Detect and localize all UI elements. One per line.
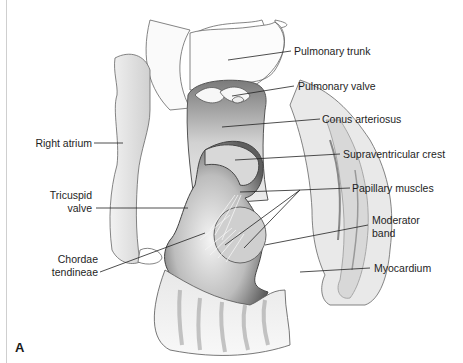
panel-letter: A (15, 340, 24, 355)
label-conus-arteriosus: Conus arteriosus (322, 113, 401, 125)
label-moderator-band-1: Moderator (372, 214, 420, 226)
label-right-atrium: Right atrium (20, 137, 92, 149)
label-chordae-tendineae-2: tendineae (30, 266, 98, 278)
label-supraventricular-crest: Supraventricular crest (343, 148, 445, 160)
label-tricuspid-valve-1: Tricuspid (30, 189, 92, 201)
label-tricuspid-valve-2: valve (30, 202, 92, 214)
label-chordae-tendineae-1: Chordae (30, 253, 98, 265)
label-pulmonary-valve: Pulmonary valve (298, 80, 376, 92)
label-myocardium: Myocardium (374, 262, 431, 274)
label-pulmonary-trunk: Pulmonary trunk (294, 45, 370, 57)
label-papillary-muscles: Papillary muscles (352, 182, 434, 194)
label-moderator-band-2: band (372, 227, 395, 239)
